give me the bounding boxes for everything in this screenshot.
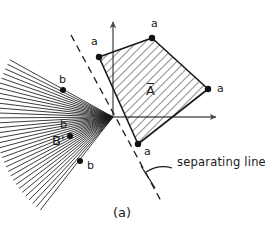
set-b-point-label-1: b [60,119,67,130]
set-b-point-dot [60,87,66,93]
set-a-vertex-dot [96,54,102,60]
set-a-vertex-dot [205,86,211,92]
figure-graphic [0,0,265,233]
set-a-region-label-text: A [146,83,155,97]
set-a-vertex-dot [135,141,141,147]
figure-caption: (a) [113,206,131,219]
separating-line-label: separating line [177,157,265,169]
cone-ray [22,117,113,192]
cone-ray [0,83,113,117]
set-a-region-label: A [146,83,155,97]
cone-ray [2,78,113,117]
set-a-vertex-label-1: a [151,18,158,29]
set-a-vertex-label-3: a [144,146,151,157]
separating-line-leader [146,167,172,172]
set-a-vertex-dot [149,35,155,41]
figure-container: a a a a A b b b B' separating line (a) [0,0,265,233]
set-b-point-label-0: b [59,74,66,85]
set-a-vertex-label-0: a [91,36,98,47]
set-b-point-dot [67,133,73,139]
set-b-point-label-2: b [87,160,94,171]
separating-line-tick [141,166,155,188]
set-b-point-dot [77,158,83,164]
set-b-region-label: B' [52,134,65,147]
set-a-vertex-label-2: a [217,83,224,94]
